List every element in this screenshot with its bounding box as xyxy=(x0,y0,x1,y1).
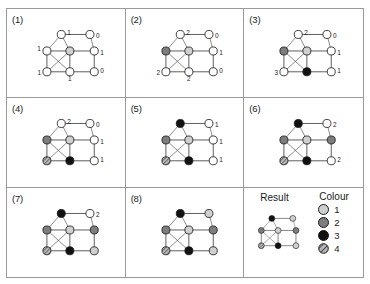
graph-node-ml xyxy=(259,227,265,233)
legend-swatch-colour1 xyxy=(318,204,329,215)
graph-node-mr xyxy=(328,47,336,55)
graph-node-mc xyxy=(303,136,311,144)
graph-node-mc xyxy=(303,47,311,55)
legend-title: Colour xyxy=(319,191,348,202)
graph-node-tr xyxy=(86,120,94,128)
graph-node-ml xyxy=(162,226,170,234)
panel-step-label: (1) xyxy=(12,15,23,25)
node-degree-label-tr: 2 xyxy=(96,210,100,217)
graph-wrapper: 20131 xyxy=(263,23,345,80)
graph-node-tr xyxy=(290,215,296,221)
graph-node-br xyxy=(328,68,336,76)
graph-node-mc xyxy=(66,226,74,234)
graph-wrapper: 2 xyxy=(26,202,108,259)
panel-1: (1)1011110 xyxy=(7,9,126,98)
graph-node-ml xyxy=(43,136,51,144)
graph-node-mc xyxy=(185,136,193,144)
graph-node-tl xyxy=(57,209,65,217)
panel-6: (6)22 xyxy=(244,98,363,187)
graph-node-bl xyxy=(43,157,51,165)
graph-node-tl xyxy=(295,120,303,128)
graph-node-ml xyxy=(162,136,170,144)
node-degree-label-tl: 2 xyxy=(186,29,190,36)
graph-node-bc xyxy=(275,242,281,248)
graph-node-bl xyxy=(259,242,265,248)
graph-node-mr xyxy=(293,227,299,233)
graph-node-br xyxy=(90,68,98,76)
graph-node-ml xyxy=(280,136,288,144)
panel-result: ResultColour1234 xyxy=(244,188,363,277)
graph-node-mr xyxy=(90,47,98,55)
panel-5: (5)111 xyxy=(126,98,245,187)
graph-node-br xyxy=(209,157,217,165)
panel-step-label: (7) xyxy=(12,194,23,204)
graph-node-bl xyxy=(162,157,170,165)
graph-node-bc xyxy=(303,68,311,76)
panel-2: (2)201220 xyxy=(126,9,245,98)
node-degree-label-mr: 1 xyxy=(338,49,342,56)
graph-panel-4: 2011 xyxy=(26,112,108,169)
node-degree-label-tl: 2 xyxy=(67,119,71,126)
graph-wrapper xyxy=(246,210,306,252)
graph-node-br xyxy=(209,246,217,254)
graph-node-bc xyxy=(185,246,193,254)
node-degree-label-br: 1 xyxy=(219,157,223,164)
graph-wrapper: 2011 xyxy=(26,112,108,169)
graph-node-ml xyxy=(43,226,51,234)
graph-node-br xyxy=(90,157,98,165)
graph-node-bl xyxy=(280,157,288,165)
panel-step-label: (3) xyxy=(249,15,260,25)
node-degree-label-bc: 2 xyxy=(187,75,191,82)
graph-node-tr xyxy=(205,120,213,128)
graph-node-mc xyxy=(185,226,193,234)
legend-label: 4 xyxy=(334,243,339,254)
panel-grid: (1)1011110(2)201220(3)20131(4)2011(5)111… xyxy=(6,8,364,278)
graph-panel-1: 1011110 xyxy=(26,23,108,80)
legend-item: 4 xyxy=(318,242,348,255)
graph-panel-2: 201220 xyxy=(145,23,227,80)
legend-label: 2 xyxy=(334,217,339,228)
node-degree-label-tr: 0 xyxy=(215,32,219,39)
graph-node-ml xyxy=(162,47,170,55)
graph-node-bc xyxy=(66,157,74,165)
graph-node-bl xyxy=(162,68,170,76)
graph-node-br xyxy=(209,68,217,76)
graph-node-bl xyxy=(280,68,288,76)
graph-node-bl xyxy=(43,246,51,254)
graph-node-mr xyxy=(90,136,98,144)
panel-step-label: (2) xyxy=(131,15,142,25)
panel-step-label: (8) xyxy=(131,194,142,204)
graph-node-mr xyxy=(209,136,217,144)
graph-panel-result xyxy=(246,210,306,252)
graph-panel-3: 20131 xyxy=(263,23,345,80)
node-degree-label-mr: 1 xyxy=(219,49,223,56)
graph-node-br xyxy=(328,157,336,165)
graph-node-tr xyxy=(205,30,213,38)
graph-node-bl xyxy=(162,246,170,254)
panel-7: (7)2 xyxy=(7,188,126,277)
graph-node-bc xyxy=(303,157,311,165)
graph-node-bc xyxy=(185,157,193,165)
graph-node-ml xyxy=(43,47,51,55)
node-degree-label-mr: 1 xyxy=(219,139,223,146)
legend-swatch-colour2 xyxy=(318,217,329,228)
legend-item: 1 xyxy=(318,203,348,216)
graph-node-mc xyxy=(66,136,74,144)
node-degree-label-tr: 0 xyxy=(96,32,100,39)
node-degree-label-tl: 1 xyxy=(67,29,71,36)
node-degree-label-tr: 1 xyxy=(215,121,219,128)
node-degree-label-br: 0 xyxy=(219,67,223,74)
legend-label: 3 xyxy=(334,230,339,241)
node-degree-label-ml: 1 xyxy=(37,45,41,52)
graph-node-mr xyxy=(209,226,217,234)
graph-node-tl xyxy=(57,120,65,128)
graph-panel-5: 111 xyxy=(145,112,227,169)
panel-4: (4)2011 xyxy=(7,98,126,187)
graph-panel-6: 22 xyxy=(263,112,345,169)
graph-wrapper: 1011110 xyxy=(26,23,108,80)
node-degree-label-bl: 1 xyxy=(38,69,42,76)
panel-step-label: (4) xyxy=(12,104,23,114)
node-degree-label-bl: 3 xyxy=(275,69,279,76)
graph-wrapper: 22 xyxy=(263,112,345,169)
result-title: Result xyxy=(260,192,288,203)
